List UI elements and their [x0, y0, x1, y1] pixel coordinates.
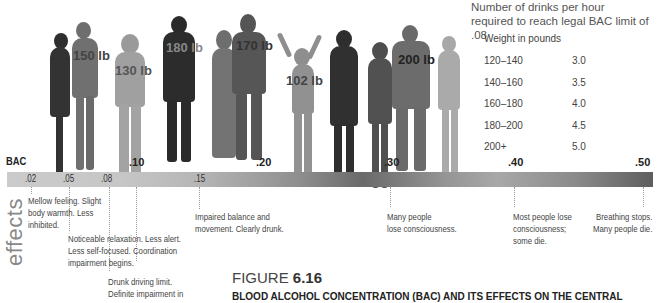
effect-40: Most people lose consciousness; some die… [513, 211, 572, 247]
bac-tick-08: .08 [101, 173, 112, 184]
effect-text-line: Many people [387, 211, 457, 223]
effect-text-line: inhibited. [28, 219, 101, 231]
bac-tick-20: .20 [256, 156, 271, 168]
weight-label-180: 180 lb [166, 40, 203, 55]
effect-text-line: body warmth. Less [28, 207, 101, 219]
people-silhouettes: 150 lb 130 lb 180 lb 170 lb 102 lb [0, 0, 500, 160]
row-drinks: 4.0 [572, 98, 586, 109]
bac-tick-15: .15 [194, 173, 205, 184]
weight-label-130: 130 lb [115, 63, 152, 78]
effect-text-line: impairment begins. [68, 257, 181, 269]
weight-label-102: 102 lb [286, 73, 323, 88]
bac-tick-05: .05 [63, 173, 74, 184]
bac-tick-10: .10 [129, 156, 144, 168]
effect-text-line: movement. Clearly drunk. [195, 223, 284, 235]
effect-text-line: Drunk driving limit. [108, 276, 183, 288]
effect-text-line: Noticeable relaxation. Less alert. [68, 233, 181, 245]
row-weight: 140–160 [484, 77, 523, 88]
drinks-table-title-line1: Number of drinks per hour [471, 0, 658, 14]
bac-axis-label: BAC [6, 155, 26, 167]
weight-label-150: 150 lb [73, 48, 110, 63]
effect-text-line: Many people die. [593, 223, 652, 235]
effect-text-line: Most people lose [513, 211, 572, 223]
effect-text-line: lose consciousness. [387, 223, 457, 235]
drinks-table-column-header: Weight in pounds [484, 33, 561, 44]
effect-30: Many people lose consciousness. [387, 211, 457, 235]
row-drinks: 5.0 [572, 141, 586, 152]
row-weight: 120–140 [484, 55, 523, 66]
figure-label: FIGURE [232, 269, 289, 286]
row-drinks: 4.5 [572, 120, 586, 131]
bac-tick-02: .02 [25, 173, 36, 184]
effects-label: effects [2, 198, 28, 266]
row-drinks: 3.5 [572, 77, 586, 88]
figure-caption: BLOOD ALCOHOL CONCENTRATION (BAC) AND IT… [232, 291, 658, 303]
leader-line-50 [643, 187, 644, 207]
figure-title: FIGURE 6.16 [232, 269, 322, 286]
weight-label-170: 170 lb [236, 38, 273, 53]
effect-text-line: Less self-focused. Coordination [68, 245, 181, 257]
effect-08: Drunk driving limit. Definite impairment… [108, 276, 183, 300]
effect-text-line: Breathing stops. [593, 211, 652, 223]
leader-line-02 [31, 187, 32, 194]
effect-text-line: some die. [513, 235, 572, 247]
leader-line-30 [390, 187, 391, 207]
bac-tick-40: .40 [508, 156, 523, 168]
effect-02: Mellow feeling. Slight body warmth. Less… [28, 195, 101, 231]
row-drinks: 3.0 [572, 55, 586, 66]
effect-text-line: Impaired balance and [195, 211, 284, 223]
bac-tick-30: .30 [384, 156, 399, 168]
leader-line-40 [514, 187, 515, 207]
row-weight: 160–180 [484, 98, 523, 109]
effect-15: Impaired balance and movement. Clearly d… [195, 211, 284, 235]
effect-50: Breathing stops. Many people die. [593, 211, 652, 235]
effect-text-line: Mellow feeling. Slight [28, 195, 101, 207]
effect-text-line: consciousness; [513, 223, 572, 235]
figure-number: 6.16 [293, 269, 322, 286]
effect-text-line: Definite impairment in [108, 288, 183, 300]
effect-05: Noticeable relaxation. Less alert. Less … [68, 233, 181, 269]
weight-label-200: 200 lb [398, 52, 435, 67]
row-weight: 180–200 [484, 120, 523, 131]
leader-line-15 [199, 187, 200, 209]
row-weight: 200+ [484, 141, 507, 152]
bac-tick-50: .50 [635, 156, 650, 168]
